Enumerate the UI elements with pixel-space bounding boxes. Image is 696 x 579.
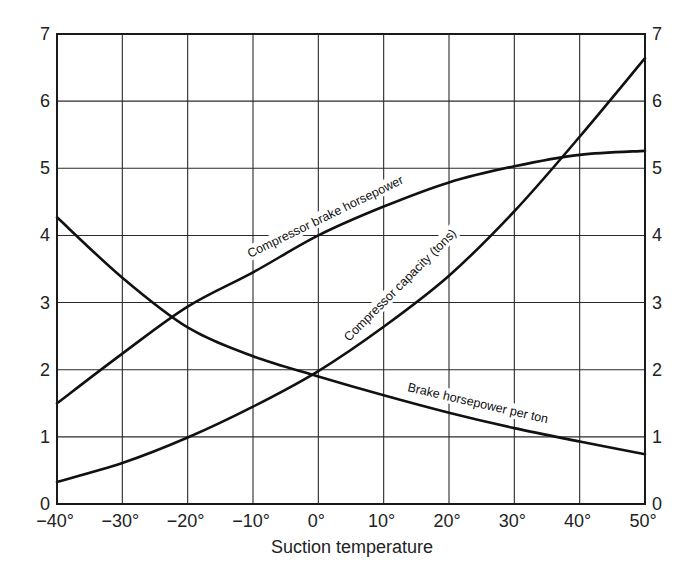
y-tick-label-left: 1	[40, 427, 50, 447]
y-tick-label-right: 4	[652, 225, 662, 245]
y-tick-label-right: 1	[652, 427, 662, 447]
y-tick-label-right: 7	[652, 24, 662, 44]
label-brake-horsepower: Compressor brake horsepower	[243, 172, 406, 262]
curve-label-brake-horsepower: Compressor brake horsepower	[245, 173, 405, 261]
curve-compressor-capacity	[57, 58, 645, 482]
grid-lines	[57, 34, 645, 504]
x-tick-label: 50°	[629, 511, 656, 531]
y-tick-label-left: 6	[40, 91, 50, 111]
x-tick-label: 0°	[308, 511, 325, 531]
plot-border	[57, 34, 645, 504]
y-tick-label-left: 2	[40, 360, 50, 380]
y-tick-label-left: 7	[40, 24, 50, 44]
x-tick-label: −30°	[101, 511, 139, 531]
y-tick-label-right: 6	[652, 91, 662, 111]
curve-compressor-brake-horsepower	[57, 151, 645, 403]
x-tick-label: 10°	[368, 511, 395, 531]
x-tick-label: 40°	[564, 511, 591, 531]
x-tick-label: −10°	[232, 511, 270, 531]
axis-ticks: 0011223344556677−40°−30°−20°−10°0°10°20°…	[36, 24, 662, 531]
chart-canvas: Compressor brake horsepower Compressor c…	[0, 0, 696, 579]
curve-label-capacity: Compressor capacity (tons)	[341, 226, 459, 344]
y-tick-label-right: 3	[652, 293, 662, 313]
y-tick-label-right: 5	[652, 158, 662, 178]
x-tick-label: −40°	[36, 511, 74, 531]
data-curves	[57, 58, 645, 482]
y-tick-label-left: 3	[40, 293, 50, 313]
label-capacity: Compressor capacity (tons)	[339, 222, 463, 346]
y-tick-label-left: 4	[40, 225, 50, 245]
x-axis-title: Suction temperature	[271, 537, 433, 557]
x-tick-label: −20°	[167, 511, 205, 531]
x-tick-label: 30°	[499, 511, 526, 531]
y-tick-label-right: 2	[652, 360, 662, 380]
plot-frame	[57, 34, 645, 504]
y-tick-label-left: 5	[40, 158, 50, 178]
x-tick-label: 20°	[433, 511, 460, 531]
